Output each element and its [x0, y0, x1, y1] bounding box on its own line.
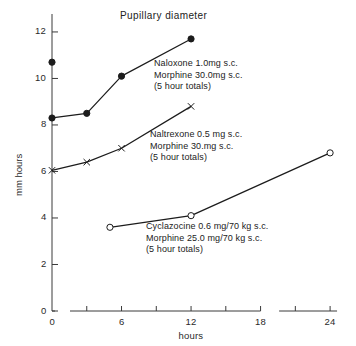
chart-figure: Pupillary diameter mm hours hours 024681…	[0, 0, 356, 346]
annotation-naltrexone: Naltrexone 0.5 mg s.c. Morphine 30.mg s.…	[150, 129, 242, 164]
annotation-line: Naltrexone 0.5 mg s.c.	[150, 129, 242, 141]
data-point-filled-circle	[84, 110, 90, 116]
x-tick-label: 6	[119, 316, 124, 327]
y-tick-label: 2	[41, 258, 46, 269]
annotation-line: Cyclazocine 0.6 mg/70 kg s.c.	[146, 221, 268, 233]
data-point-filled-circle	[118, 73, 124, 79]
series-line	[110, 153, 330, 227]
data-point-filled-circle	[49, 59, 55, 65]
x-tick-label: 24	[325, 316, 336, 327]
annotation-line: (5 hour totals)	[146, 244, 268, 256]
x-axis-label: hours	[179, 330, 204, 341]
annotation-cyclazocine: Cyclazocine 0.6 mg/70 kg s.c. Morphine 2…	[146, 221, 268, 256]
x-tick-label: 0	[50, 316, 55, 327]
y-tick-label: 6	[41, 165, 46, 176]
annotation-naloxone: Naloxone 1.0mg s.c. Morphine 30.0mg s.c.…	[154, 58, 243, 93]
chart-plot-area	[0, 0, 356, 346]
extra-point-0	[49, 59, 55, 65]
y-tick-label: 4	[41, 211, 46, 222]
annotation-line: Morphine 25.0 mg/70 kg s.c.	[146, 233, 268, 245]
annotation-line: Morphine 30.0mg s.c.	[154, 70, 243, 82]
data-point-filled-circle	[49, 115, 55, 121]
data-point-filled-circle	[188, 36, 194, 42]
annotation-line: (5 hour totals)	[150, 152, 242, 164]
chart-title: Pupillary diameter	[120, 10, 207, 21]
x-tick-label: 12	[186, 316, 197, 327]
y-tick-label: 10	[35, 72, 46, 83]
annotation-line: (5 hour totals)	[154, 81, 243, 93]
annotation-line: Naloxone 1.0mg s.c.	[154, 58, 243, 70]
annotation-line: Morphine 30.mg s.c.	[150, 141, 242, 153]
data-point-open-circle	[188, 213, 194, 219]
y-tick-label: 8	[41, 118, 46, 129]
data-point-open-circle	[107, 224, 113, 230]
x-tick-label: 18	[255, 316, 266, 327]
y-tick-label: 12	[35, 25, 46, 36]
y-axis-label: mm hours	[13, 154, 24, 196]
data-point-open-circle	[327, 150, 333, 156]
y-tick-label: 0	[41, 305, 46, 316]
